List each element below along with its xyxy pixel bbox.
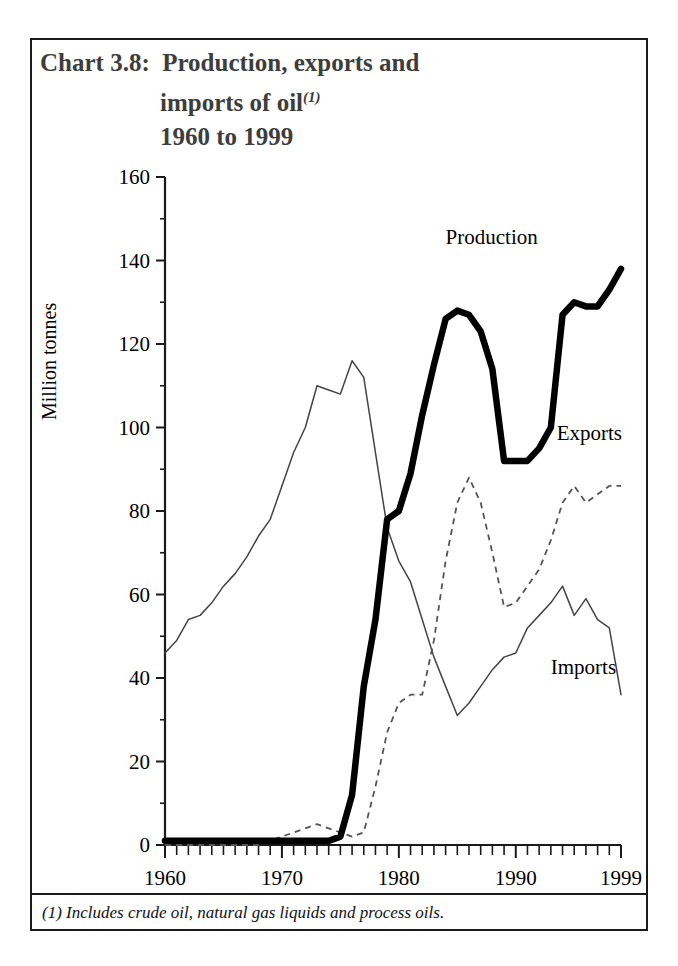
y-tick-label: 100	[119, 416, 151, 440]
y-tick-label: 160	[119, 165, 151, 189]
x-tick-label: 1999	[600, 866, 642, 890]
series-label-production: Production	[446, 225, 539, 249]
series-label-exports: Exports	[557, 421, 622, 445]
chart-plot-area: 020406080100120140160 196019701980199019…	[0, 0, 678, 966]
x-tick-label: 1960	[144, 866, 186, 890]
y-tick-label: 140	[119, 249, 151, 273]
y-axis-major-ticks	[156, 177, 165, 845]
x-tick-label: 1980	[378, 866, 420, 890]
x-axis-tick-labels: 19601970198019901999	[144, 866, 642, 890]
series-label-imports: Imports	[551, 655, 616, 679]
footnote-text: (1) Includes crude oil, natural gas liqu…	[42, 903, 642, 923]
x-axis-ticks	[165, 845, 621, 858]
y-tick-label: 0	[140, 833, 151, 857]
y-tick-label: 40	[129, 666, 150, 690]
y-tick-label: 20	[129, 750, 150, 774]
footnote-divider	[32, 893, 646, 895]
y-axis-tick-labels: 020406080100120140160	[119, 165, 151, 857]
x-tick-label: 1970	[261, 866, 303, 890]
y-tick-label: 120	[119, 332, 151, 356]
x-tick-label: 1990	[495, 866, 537, 890]
series-line-production	[165, 269, 621, 841]
y-tick-label: 60	[129, 583, 150, 607]
y-tick-label: 80	[129, 499, 150, 523]
chart-page: Chart 3.8: Production, exports and impor…	[0, 0, 678, 966]
